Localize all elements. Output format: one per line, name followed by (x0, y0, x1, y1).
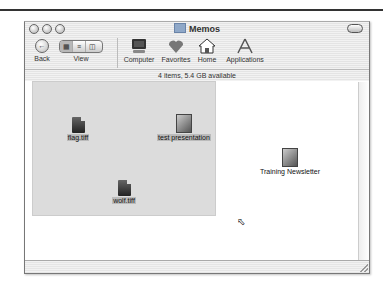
resize-grip-icon[interactable] (360, 264, 368, 272)
toolbar: ← Back ▦ ≡ ◫ View Computer (25, 36, 369, 69)
applications-label: Applications (221, 56, 269, 63)
toolbar-item-applications[interactable]: Applications (221, 38, 269, 63)
heart-icon (167, 38, 185, 54)
window-title: Memos (25, 23, 369, 34)
file-item[interactable]: flag.tiff (58, 117, 98, 141)
toolbar-toggle-button[interactable] (347, 24, 363, 33)
file-name: flag.tiff (67, 134, 90, 141)
toolbar-item-home[interactable]: Home (195, 38, 219, 63)
view-control: ▦ ≡ ◫ View (59, 39, 103, 62)
document-file-icon (282, 148, 298, 167)
tiff-file-icon (118, 180, 131, 196)
computer-icon (130, 38, 148, 54)
toolbar-item-computer[interactable]: Computer (121, 38, 157, 63)
back-arrow-icon: ← (35, 39, 49, 53)
home-label: Home (195, 56, 219, 63)
applications-icon (236, 38, 254, 54)
title-bar[interactable]: Memos (25, 22, 369, 36)
bottom-bar (25, 260, 369, 273)
mouse-pointer-icon: ⬁ (237, 217, 245, 227)
file-item[interactable]: test presentation (148, 114, 220, 141)
window-chrome: Memos ← Back ▦ ≡ ◫ View (25, 22, 369, 81)
presentation-file-icon (176, 114, 192, 133)
list-view-icon[interactable]: ≡ (73, 41, 86, 52)
tiff-file-icon (72, 117, 85, 133)
back-label: Back (31, 55, 53, 62)
back-button[interactable]: ← Back (31, 39, 53, 62)
file-item[interactable]: Training Newsletter (250, 148, 330, 175)
favorites-label: Favorites (159, 56, 193, 63)
window-title-text: Memos (189, 24, 220, 34)
vertical-scrollbar[interactable] (358, 82, 369, 260)
top-divider-line (0, 9, 383, 11)
file-name: test presentation (157, 134, 211, 141)
view-label: View (59, 55, 103, 62)
icon-view-icon[interactable]: ▦ (60, 41, 73, 52)
column-view-icon[interactable]: ◫ (86, 41, 98, 52)
file-name: wolf.tiff (112, 197, 136, 204)
house-icon (198, 38, 216, 54)
file-item[interactable]: wolf.tiff (104, 180, 144, 204)
folder-icon (174, 23, 186, 33)
computer-label: Computer (121, 56, 157, 63)
view-segmented-control: ▦ ≡ ◫ (59, 40, 103, 53)
toolbar-item-favorites[interactable]: Favorites (159, 38, 193, 63)
toolbar-separator (117, 38, 118, 68)
file-name: Training Newsletter (259, 168, 321, 175)
